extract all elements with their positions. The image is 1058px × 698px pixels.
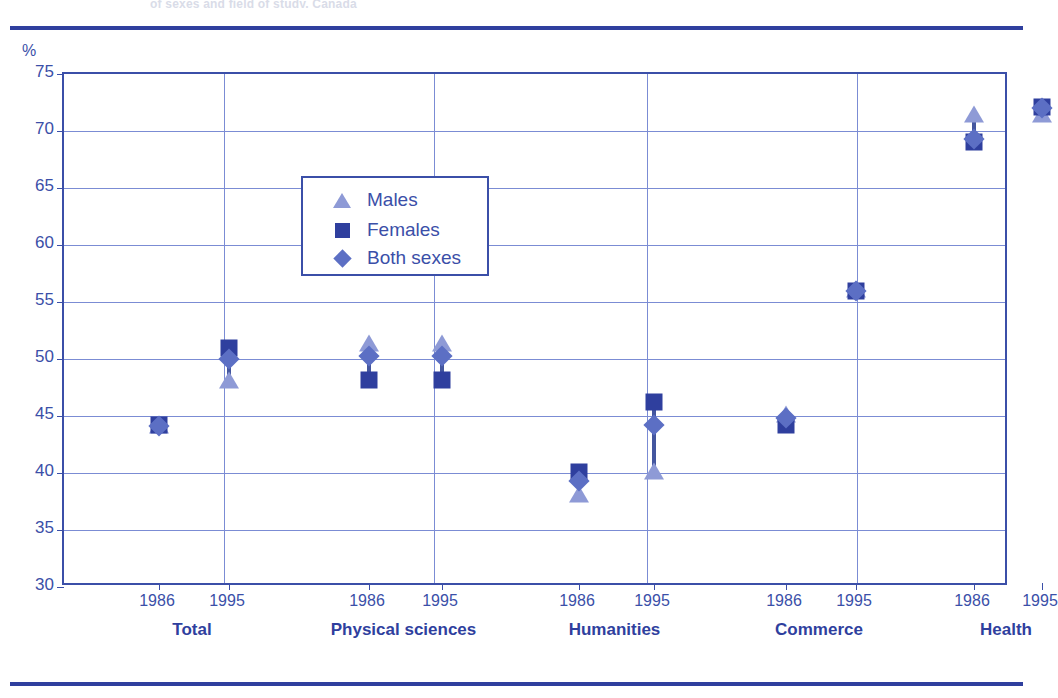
legend-entry-both-sexes: Both sexes [329,244,461,272]
y-tick-mark [57,359,64,360]
gridline [64,416,1005,417]
square-icon [329,223,355,238]
y-tick-label: 60 [14,233,54,253]
male-triangle-marker [964,106,984,123]
y-tick-mark [57,131,64,132]
y-tick-label: 35 [14,518,54,538]
bottom-rule [10,682,1023,686]
y-tick-label: 75 [14,62,54,82]
triangle-up-icon [329,193,355,208]
plot-area: Males Females Both sexes [62,72,1007,585]
female-square-marker [434,371,451,388]
group-separator [647,74,648,583]
x-axis-year-label: 1995 [836,592,872,610]
gridline [64,359,1005,360]
y-axis-unit-label: % [22,42,36,60]
x-axis-category-label: Commerce [775,620,863,640]
x-axis-year-label: 1986 [139,592,175,610]
female-square-marker [646,394,663,411]
y-tick-mark [57,302,64,303]
gridline [64,302,1005,303]
y-axis-tick-labels: 30354045505560657075 [8,72,54,585]
x-tick-mark [654,583,655,590]
x-axis-year-label: 1986 [954,592,990,610]
y-tick-mark [57,188,64,189]
female-square-marker [361,371,378,388]
diamond-icon [329,252,355,265]
legend-label: Both sexes [367,247,461,269]
gridline [64,131,1005,132]
y-tick-label: 50 [14,347,54,367]
x-axis-year-label: 1995 [1022,592,1058,610]
y-tick-mark [57,416,64,417]
legend: Males Females Both sexes [301,176,489,276]
x-tick-mark [974,583,975,590]
x-axis-year-label: 1995 [209,592,245,610]
legend-label: Females [367,219,440,241]
male-triangle-marker [644,463,664,480]
cut-off-title: of sexes and field of study, Canada [150,0,570,8]
y-tick-mark [57,587,64,588]
gridline [64,530,1005,531]
x-axis-category-label: Health [980,620,1032,640]
x-axis-year-label: 1986 [766,592,802,610]
y-tick-label: 30 [14,575,54,595]
group-separator [224,74,225,583]
x-axis-year-label: 1995 [634,592,670,610]
x-axis-year-label: 1986 [559,592,595,610]
legend-entry-males: Males [329,186,418,214]
gridline [64,473,1005,474]
x-axis-year-label: 1995 [422,592,458,610]
legend-label: Males [367,189,418,211]
y-tick-label: 55 [14,290,54,310]
x-tick-mark [579,583,580,590]
group-separator [434,74,435,583]
x-tick-mark [229,583,230,590]
male-triangle-marker [219,371,239,388]
x-axis-year-label: 1986 [349,592,385,610]
y-tick-label: 70 [14,119,54,139]
x-tick-mark [1042,583,1043,590]
x-axis-category-label: Total [172,620,211,640]
gridline [64,188,1005,189]
x-tick-mark [159,583,160,590]
y-tick-mark [57,473,64,474]
gridline [64,245,1005,246]
x-tick-mark [442,583,443,590]
x-tick-mark [786,583,787,590]
legend-entry-females: Females [329,216,440,244]
x-tick-mark [856,583,857,590]
y-tick-label: 65 [14,176,54,196]
y-tick-label: 45 [14,404,54,424]
x-axis-category-label: Physical sciences [331,620,477,640]
group-separator [857,74,858,583]
y-tick-mark [57,245,64,246]
x-tick-mark [369,583,370,590]
y-tick-label: 40 [14,461,54,481]
y-tick-mark [57,530,64,531]
top-rule [10,26,1023,30]
x-axis-category-label: Humanities [569,620,661,640]
y-tick-mark [57,74,64,75]
